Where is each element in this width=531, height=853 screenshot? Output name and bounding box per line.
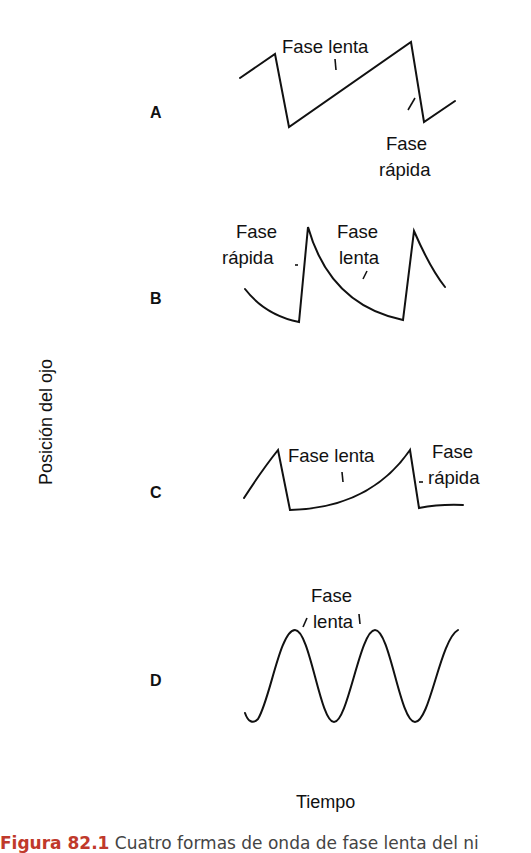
figure-caption: Figura 82.1 Cuatro formas de onda de fas…	[0, 833, 479, 853]
panel-d-letter: D	[150, 672, 162, 689]
panel-c-fast-label-1: Fase	[432, 441, 473, 462]
panel-b-fast-label-1: Fase	[236, 221, 277, 242]
panel-b-slow-label-1: Fase	[337, 221, 378, 242]
waveform-d	[245, 630, 458, 722]
panel-c-slow-pointer	[342, 472, 343, 482]
panel-a-fast-pointer	[408, 98, 415, 110]
panel-d-slow-label-1: Fase	[311, 585, 352, 606]
panel-b-letter: B	[150, 290, 162, 307]
panel-d-slow-pointer-2	[359, 614, 360, 624]
panel-c-fast-label-2: rápida	[428, 467, 480, 488]
panel-a-slow-label: Fase lenta	[282, 36, 369, 57]
x-axis-label: Tiempo	[296, 792, 355, 812]
figure-number: Figura 82.1	[0, 833, 109, 853]
panel-b-slow-pointer	[363, 271, 367, 279]
caption-text: Cuatro formas de onda de fase lenta del …	[115, 833, 479, 853]
panel-a-slow-pointer	[335, 59, 336, 70]
panel-b-slow-label-2: lenta	[339, 247, 380, 268]
panel-b-fast-label-2: rápida	[222, 247, 274, 268]
y-axis-label: Posición del ojo	[36, 359, 56, 485]
panel-c-letter: C	[150, 484, 162, 501]
panel-a-fast-label-2: rápida	[379, 159, 431, 180]
panel-d-slow-pointer-1	[303, 618, 307, 627]
panel-a-fast-label-1: Fase	[386, 133, 427, 154]
panel-c-slow-label: Fase lenta	[288, 445, 375, 466]
panel-a-letter: A	[150, 104, 162, 121]
panel-d-slow-label-2: lenta	[313, 611, 354, 632]
